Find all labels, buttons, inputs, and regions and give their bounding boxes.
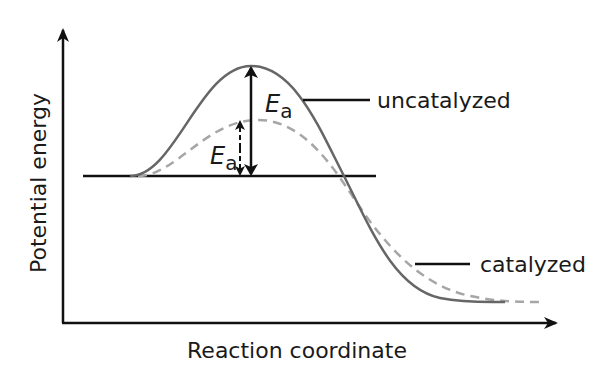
x-axis-label: Reaction coordinate bbox=[187, 338, 407, 363]
catalyzed-label: catalyzed bbox=[480, 252, 586, 277]
y-axis-label: Potential energy bbox=[26, 93, 51, 273]
uncatalyzed-label: uncatalyzed bbox=[377, 88, 511, 113]
ea-catalyzed-label: Ea bbox=[210, 142, 237, 175]
ea-uncatalyzed-label: Ea bbox=[265, 90, 292, 123]
energy-diagram-svg: Potential energy Reaction coordinate Ea … bbox=[0, 0, 598, 381]
energy-diagram: Potential energy Reaction coordinate Ea … bbox=[0, 0, 598, 381]
